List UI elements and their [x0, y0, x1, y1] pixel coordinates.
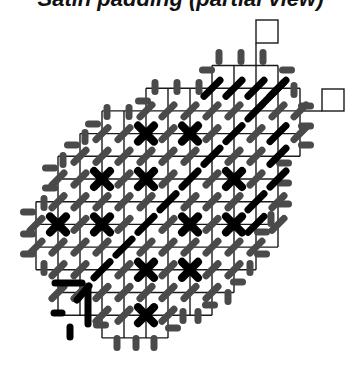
grey-stitch: [118, 218, 130, 230]
stitch-diagram: [0, 0, 361, 367]
grey-stitch: [250, 150, 262, 162]
edge-stitch: [93, 322, 109, 329]
grey-stitch: [74, 264, 86, 276]
edge-stitch: [135, 98, 151, 105]
grey-stitch: [118, 150, 130, 162]
grey-stitch: [52, 241, 64, 253]
grey-stitch: [184, 105, 196, 117]
grey-stitch: [272, 105, 284, 117]
cross-icon: [138, 126, 154, 142]
edge-stitch: [41, 260, 48, 276]
edge-stitch: [41, 195, 48, 211]
edge-stitch: [126, 104, 133, 120]
grey-stitch: [140, 287, 152, 299]
edge-stitch: [20, 209, 36, 216]
grey-stitch: [184, 196, 196, 208]
cross-icon: [226, 171, 242, 187]
cross-icon: [138, 262, 154, 278]
grey-stitch: [206, 173, 218, 185]
edge-stitch: [298, 142, 314, 149]
edge-stitch: [254, 251, 270, 258]
grey-stitch: [228, 264, 240, 276]
grey-stitch: [206, 264, 218, 276]
grey-stitch: [250, 128, 262, 140]
cross-icon: [226, 216, 242, 232]
grey-stitch: [206, 105, 218, 117]
grey-stitch: [96, 196, 108, 208]
edge-stitch: [279, 67, 295, 74]
grey-stitch: [118, 196, 130, 208]
edge-stitch: [260, 49, 267, 65]
grey-stitch: [140, 105, 152, 117]
grey-stitch: [228, 150, 240, 162]
grey-stitch: [118, 128, 130, 140]
edge-stitch: [216, 49, 223, 65]
edge-stitch: [151, 335, 158, 351]
grey-stitch: [96, 309, 108, 321]
edge-stitch: [298, 123, 314, 130]
grey-stitch: [228, 105, 240, 117]
grey-stitch: [118, 173, 130, 185]
grey-stitch: [184, 287, 196, 299]
grey-stitch: [162, 241, 174, 253]
edge-stitch: [60, 152, 67, 168]
grey-stitch: [162, 128, 174, 140]
grey-stitch: [162, 105, 174, 117]
edge-stitch: [165, 325, 181, 332]
edge-stitch: [254, 229, 270, 236]
grey-stitch: [140, 150, 152, 162]
grey-stitch: [162, 173, 174, 185]
edge-stitch: [64, 142, 80, 149]
grey-stitch: [206, 128, 218, 140]
grey-stitch: [52, 264, 64, 276]
edge-stitch: [82, 129, 89, 145]
edge-stitch: [180, 308, 187, 324]
cross-icon: [50, 216, 66, 232]
flag-box-top: [256, 20, 278, 43]
grey-stitch: [162, 309, 174, 321]
edge-stitch: [298, 103, 314, 110]
grey-stitch: [162, 218, 174, 230]
grey-stitch: [74, 196, 86, 208]
edge-stitch: [202, 302, 218, 309]
edge-stitch: [276, 201, 292, 208]
grey-stitch: [162, 287, 174, 299]
grey-stitch: [250, 173, 262, 185]
grey-stitch: [74, 150, 86, 162]
grey-stitch: [206, 196, 218, 208]
cross-icon: [182, 216, 198, 232]
grey-stitch: [96, 287, 108, 299]
edge-stitch: [195, 308, 202, 324]
grey-stitch: [206, 287, 218, 299]
edge-stitch: [42, 165, 58, 172]
edge-stitch: [20, 231, 36, 238]
flag-box-right: [322, 89, 344, 111]
grey-stitch: [118, 287, 130, 299]
cross-icon: [138, 171, 154, 187]
grey-stitch: [140, 241, 152, 253]
edge-stitch: [238, 49, 245, 65]
cross-icon: [138, 307, 154, 323]
grey-stitch: [74, 218, 86, 230]
grey-stitch: [184, 150, 196, 162]
edge-stitch: [230, 279, 246, 286]
edge-stitch: [133, 335, 140, 351]
grey-stitch: [162, 264, 174, 276]
edge-stitch: [104, 104, 111, 120]
edge-stitch: [225, 289, 232, 305]
edge-stitch: [20, 251, 36, 258]
grey-stitch: [162, 150, 174, 162]
grey-stitch: [118, 264, 130, 276]
grey-stitch: [140, 196, 152, 208]
grey-stitch: [228, 241, 240, 253]
grey-stitch: [30, 218, 42, 230]
grey-stitch: [74, 241, 86, 253]
grey-stitch: [206, 218, 218, 230]
edge-stitch: [199, 67, 215, 74]
grey-stitch: [96, 241, 108, 253]
edge-stitch: [114, 335, 121, 351]
grey-stitch: [118, 309, 130, 321]
edge-stitch: [152, 79, 159, 95]
grey-stitch: [228, 196, 240, 208]
edge-stitch: [268, 211, 275, 227]
